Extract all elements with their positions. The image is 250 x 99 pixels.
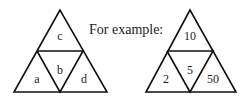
left-bottom-left-label: a [34, 72, 40, 86]
left-top-label: c [57, 29, 62, 43]
caption-text: For example: [89, 22, 163, 37]
right-bottom-left-label: 2 [163, 72, 169, 86]
diagram-canvas: c a b d For example: 10 2 5 50 [0, 0, 250, 99]
right-center-label: 5 [187, 63, 193, 77]
left-bottom-right-label: d [81, 72, 87, 86]
left-center-label: b [57, 63, 63, 77]
right-top-label: 10 [184, 29, 196, 43]
right-bottom-right-label: 50 [207, 72, 219, 86]
